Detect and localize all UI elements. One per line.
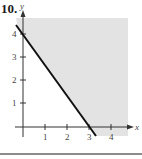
x-axis-label: x — [134, 122, 139, 132]
y-axis-arrow-icon — [21, 10, 26, 17]
y-axis-label: y — [19, 1, 24, 11]
y-tick-label: 3 — [12, 52, 17, 62]
x-tick-label: 2 — [65, 132, 70, 142]
inequality-graph: 1 2 3 4 1 2 3 4 x y — [0, 0, 142, 159]
x-tick-label: 3 — [87, 132, 92, 142]
divider — [0, 153, 142, 155]
y-tick-label: 4 — [12, 29, 17, 39]
y-tick-label: 1 — [12, 98, 17, 108]
x-tick-label: 4 — [109, 132, 114, 142]
shaded-region — [16, 18, 128, 136]
x-axis-arrow-icon — [127, 125, 134, 130]
x-tick-label: 1 — [43, 132, 48, 142]
y-tick-label: 2 — [12, 75, 17, 85]
